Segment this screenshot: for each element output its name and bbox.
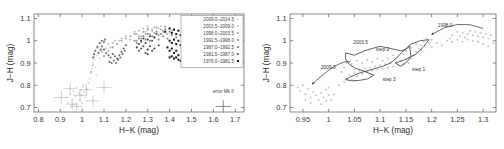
- step-annotation: step 3: [383, 77, 396, 82]
- data-point: [149, 35, 151, 37]
- x-tick-label: 1.3: [478, 115, 488, 124]
- data-point: [90, 71, 92, 73]
- data-point: [387, 66, 389, 68]
- data-point: [88, 82, 90, 84]
- trajectory-path: [346, 40, 429, 81]
- data-point: [145, 39, 147, 41]
- data-point: [436, 42, 438, 44]
- data-point: [71, 103, 73, 105]
- data-point: [169, 56, 171, 58]
- data-point: [101, 51, 103, 53]
- data-point: [158, 44, 160, 46]
- data-point: [104, 39, 106, 41]
- data-point: [112, 46, 114, 48]
- data-point: [125, 35, 127, 37]
- data-point: [145, 33, 147, 35]
- data-point: [431, 46, 433, 48]
- y-tick-label: 1: [26, 36, 30, 45]
- data-point: [158, 27, 160, 29]
- data-point: [107, 43, 109, 45]
- data-point: [173, 58, 175, 60]
- data-point: [138, 43, 140, 45]
- legend-entry: 1992.5–1998.0: [203, 38, 239, 43]
- data-point: [99, 42, 101, 44]
- data-point: [364, 68, 366, 70]
- data-point: [407, 62, 409, 64]
- y-axis-label: J−H (mag): [262, 44, 271, 83]
- data-point: [402, 53, 404, 55]
- data-point: [89, 78, 91, 80]
- legend-entry: 1976.0–1981.5: [203, 59, 239, 64]
- data-point: [304, 99, 306, 101]
- data-point: [361, 73, 363, 75]
- data-point: [166, 33, 168, 35]
- data-point: [173, 39, 175, 41]
- data-point: [487, 45, 489, 47]
- step-annotation: step 2: [376, 47, 389, 52]
- data-point: [93, 53, 95, 55]
- legend-entry: 1987.0–1992.5: [203, 45, 239, 50]
- data-point: [346, 62, 348, 64]
- step-annotation: step 1: [412, 67, 425, 72]
- data-point: [76, 86, 78, 88]
- data-point: [147, 29, 149, 31]
- series-1992-5-1998-0: [134, 29, 178, 44]
- data-point: [147, 25, 149, 27]
- data-point: [325, 100, 327, 102]
- data-point: [353, 72, 355, 74]
- x-tick-label: 0.8: [33, 115, 43, 124]
- data-point: [138, 30, 140, 32]
- legend-label: 1987.0–1992.5: [203, 45, 234, 50]
- data-point: [75, 95, 77, 97]
- x-tick-label: 1.7: [230, 115, 240, 124]
- data-point: [302, 84, 304, 86]
- data-point: [140, 37, 142, 39]
- data-point: [101, 40, 103, 42]
- data-point: [387, 57, 389, 59]
- data-point: [95, 74, 97, 76]
- data-point: [160, 25, 162, 27]
- legend-marker: [237, 18, 239, 20]
- data-point: [177, 54, 179, 56]
- data-point: [171, 48, 173, 50]
- epoch-annotation: 2009.0: [321, 65, 336, 70]
- data-point: [83, 91, 85, 93]
- data-point: [420, 44, 422, 46]
- data-point: [94, 66, 96, 68]
- data-point: [153, 36, 155, 38]
- data-point: [120, 40, 122, 42]
- data-point: [96, 46, 98, 48]
- data-point: [105, 52, 107, 54]
- data-point: [153, 32, 155, 34]
- data-point: [307, 88, 309, 90]
- data-point: [428, 42, 430, 44]
- data-point: [140, 47, 142, 49]
- data-point: [94, 50, 96, 52]
- data-point: [343, 66, 345, 68]
- data-point: [145, 31, 147, 33]
- data-point: [449, 37, 451, 39]
- data-point: [149, 33, 151, 35]
- error-legend-label: error Mk II: [213, 89, 234, 94]
- y-tick-label: 0.7: [20, 103, 30, 112]
- legend-marker: [237, 46, 239, 48]
- x-tick-label: 1.05: [347, 115, 361, 124]
- x-tick-label: 0.9: [55, 115, 65, 124]
- data-point: [151, 50, 153, 52]
- data-point: [160, 29, 162, 31]
- panel-right-trajectory: 0.9511.051.11.151.21.251.30.70.80.911.1H…: [252, 0, 504, 149]
- data-point: [136, 40, 138, 42]
- y-tick-label: 1.1: [20, 14, 30, 23]
- data-point: [92, 64, 94, 66]
- data-point: [474, 31, 476, 33]
- data-point: [392, 54, 394, 56]
- data-point: [134, 33, 136, 35]
- epoch-annotation: 2003.5: [353, 40, 368, 45]
- data-point: [171, 34, 173, 36]
- series-1987-0-1992-5: [92, 39, 127, 64]
- data-point: [171, 42, 173, 44]
- legend-entry: 2009.0–2014.5: [203, 17, 239, 22]
- data-point: [145, 52, 147, 54]
- data-point: [140, 35, 142, 37]
- data-point: [328, 86, 330, 88]
